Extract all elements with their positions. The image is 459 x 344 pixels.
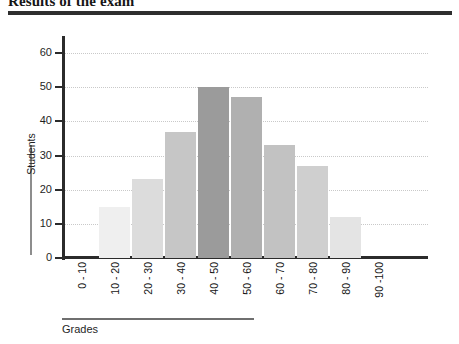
x-tick-label-wrap: 80 - 90 xyxy=(329,262,362,314)
y-tick-label: 60 xyxy=(18,46,52,58)
x-axis-title-divider xyxy=(62,318,254,320)
bar xyxy=(99,207,130,258)
x-tick-label: 60 - 70 xyxy=(274,262,286,295)
x-tick-label: 0 - 10 xyxy=(76,262,88,289)
bar xyxy=(231,97,262,258)
bar-slot xyxy=(98,36,131,258)
y-tick-label: 20 xyxy=(18,183,52,195)
x-tick-label-wrap: 0 - 10 xyxy=(65,262,98,314)
x-tick-label: 20 - 30 xyxy=(142,262,154,295)
bar-slot xyxy=(362,36,395,258)
y-tick-label: 0 xyxy=(18,251,52,263)
y-tick-label: 10 xyxy=(18,217,52,229)
page-title: Results of the exam xyxy=(8,0,134,10)
bar-slot xyxy=(164,36,197,258)
bar xyxy=(264,145,295,258)
x-tick-label-wrap: 50 - 60 xyxy=(230,262,263,314)
x-axis-title: Grades xyxy=(62,323,98,335)
x-tick-label-wrap: 60 - 70 xyxy=(263,262,296,314)
bar xyxy=(297,166,328,258)
x-tick-label-wrap: 90 -100 xyxy=(362,262,395,314)
bar-series xyxy=(65,36,428,258)
x-tick-label: 90 -100 xyxy=(373,262,385,298)
bar-slot xyxy=(329,36,362,258)
x-tick-label: 30 - 40 xyxy=(175,262,187,295)
x-tick-label: 50 - 60 xyxy=(241,262,253,295)
bar-slot xyxy=(263,36,296,258)
bar-slot xyxy=(131,36,164,258)
x-tick-label-wrap: 40 - 50 xyxy=(197,262,230,314)
bar-slot xyxy=(230,36,263,258)
bar-slot xyxy=(65,36,98,258)
y-axis-title: Students xyxy=(25,133,37,174)
x-tick-label-wrap: 30 - 40 xyxy=(164,262,197,314)
bar xyxy=(198,87,229,258)
x-tick-label-wrap: 10 - 20 xyxy=(98,262,131,314)
x-tick-label-wrap: 20 - 30 xyxy=(131,262,164,314)
bar xyxy=(330,217,361,258)
bar xyxy=(165,132,196,258)
x-tick-label: 40 - 50 xyxy=(208,262,220,295)
x-tick-label: 70 - 80 xyxy=(307,262,319,295)
bar-slot xyxy=(197,36,230,258)
title-divider xyxy=(8,11,452,15)
x-tick-label-wrap: 70 - 80 xyxy=(296,262,329,314)
bar xyxy=(132,179,163,258)
x-tick-label: 80 - 90 xyxy=(340,262,352,295)
y-tick-label: 50 xyxy=(18,80,52,92)
x-tick-label: 10 - 20 xyxy=(109,262,121,295)
y-tick-label: 40 xyxy=(18,114,52,126)
bar-slot xyxy=(296,36,329,258)
